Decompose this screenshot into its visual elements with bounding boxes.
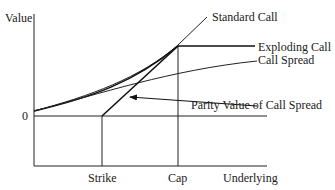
- exploding-call-label: Exploding Call: [258, 41, 331, 53]
- parity-line: [102, 46, 178, 116]
- cap-tick-label: Cap: [168, 172, 187, 184]
- zero-tick-label: 0: [22, 110, 28, 122]
- y-axis-label: Value: [5, 12, 32, 24]
- payoff-diagram: [0, 0, 335, 190]
- x-axis-label: Underlying: [223, 172, 278, 184]
- standard-call-curve: [34, 17, 207, 111]
- strike-tick-label: Strike: [88, 172, 117, 184]
- call-spread-label: Call Spread: [258, 54, 314, 66]
- standard-call-label: Standard Call: [212, 11, 278, 23]
- parity-label: Parity Value of Call Spread: [191, 99, 322, 111]
